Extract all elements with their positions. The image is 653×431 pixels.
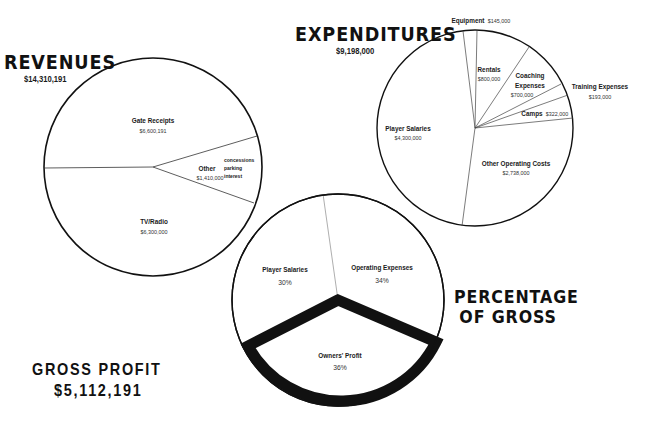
revenue-tv-radio-value: $6,300,000 — [140, 229, 167, 235]
gross-profit-value: $5,112,191 — [54, 381, 143, 401]
exp-other-operating-label: Other Operating Costs — [482, 159, 550, 169]
pct-player-salaries-label: Player Salaries — [262, 265, 307, 275]
exp-training-label: Training Expenses — [572, 82, 628, 92]
exp-rentals-label: Rentals — [477, 65, 500, 75]
percentage-pie — [232, 194, 444, 406]
revenue-other-label: Other — [198, 164, 215, 174]
revenues-total: $14,310,191 — [24, 74, 67, 84]
exp-equipment-value: $145,000 — [488, 18, 511, 24]
exp-player-salaries-label: Player Salaries — [385, 124, 430, 134]
percentage-title-line2: OF GROSS — [454, 307, 579, 327]
revenue-other-value: $1,410,000 — [196, 175, 223, 181]
exp-camps-value: $322,000 — [546, 111, 569, 117]
pct-operating-expenses-value: 34% — [375, 276, 389, 285]
exp-coaching-label: Coaching Expenses — [513, 71, 547, 91]
gross-profit-label: GROSS PROFIT — [32, 360, 162, 380]
percentage-title-line1: PERCENTAGE — [454, 287, 579, 307]
expenditures-total: $9,198,000 — [336, 46, 374, 56]
revenue-gate-receipts-label: Gate Receipts — [132, 116, 175, 126]
revenue-tv-radio-label: TV/Radio — [140, 217, 168, 227]
pct-owners-profit-value: 36% — [333, 363, 347, 372]
pct-owners-profit-label: Owners' Profit — [318, 351, 361, 361]
exp-coaching-value: $700,000 — [511, 92, 534, 98]
exp-rentals-value: $800,000 — [478, 76, 501, 82]
expenditures-title: EXPENDITURES — [295, 22, 457, 46]
exp-camps-label: Camps — [521, 109, 542, 119]
pct-operating-expenses-label: Operating Expenses — [351, 263, 413, 273]
exp-player-salaries-value: $4,300,000 — [394, 135, 421, 141]
revenue-gate-receipts-value: $6,600,191 — [139, 128, 166, 134]
revenue-other-detail-interest: interest — [224, 172, 242, 181]
exp-other-operating-value: $2,738,000 — [502, 170, 529, 176]
exp-equipment-label: Equipment — [452, 16, 485, 26]
exp-training-value: $193,000 — [589, 94, 612, 100]
pct-player-salaries-value: 30% — [278, 278, 292, 287]
percentage-title: PERCENTAGE OF GROSS — [454, 287, 579, 327]
revenues-title: REVENUES — [4, 50, 116, 74]
